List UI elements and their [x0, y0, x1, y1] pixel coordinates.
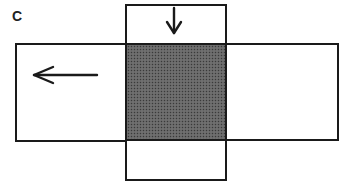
arrows-layer	[0, 0, 354, 192]
down-arrow-icon	[167, 8, 181, 33]
left-arrow-icon	[34, 67, 97, 83]
